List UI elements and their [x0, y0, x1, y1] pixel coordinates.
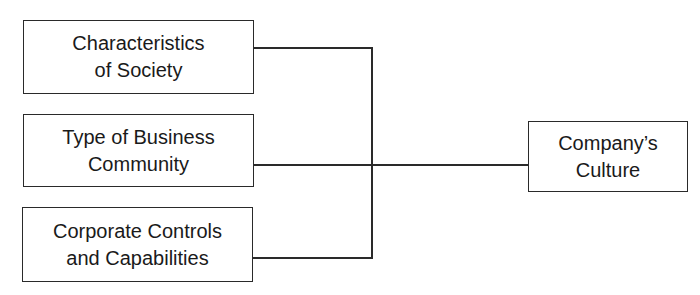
box-label-line2: Community [62, 151, 214, 178]
box-label-line1: Corporate Controls [53, 218, 222, 245]
box-label-line1: Company’s [558, 130, 658, 157]
box-label-line2: Culture [558, 157, 658, 184]
box-label-line2: and Capabilities [53, 245, 222, 272]
connector-vertical-bus [371, 47, 373, 259]
box-label-line2: of Society [72, 57, 204, 84]
output-box-companys-culture: Company’s Culture [528, 121, 688, 192]
connector-top [254, 47, 372, 49]
input-box-type-of-business-community: Type of Business Community [23, 114, 254, 187]
connector-bottom [253, 257, 372, 259]
input-box-characteristics-of-society: Characteristics of Society [23, 20, 254, 94]
box-label-line1: Characteristics [72, 30, 204, 57]
box-label-line1: Type of Business [62, 124, 214, 151]
connector-middle [254, 164, 528, 166]
input-box-corporate-controls-and-capabilities: Corporate Controls and Capabilities [22, 207, 253, 282]
